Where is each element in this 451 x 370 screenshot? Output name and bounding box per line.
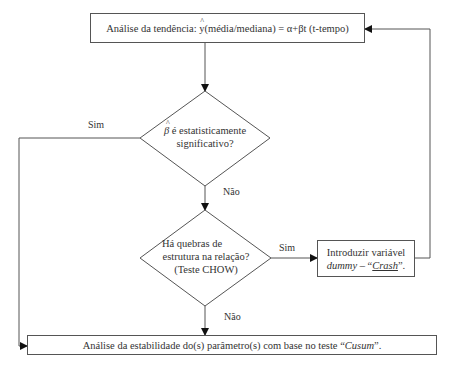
decision2-no-label: Não (224, 311, 241, 322)
decision2-text: Há quebras de estrutura na relação? (Tes… (148, 237, 264, 276)
decision2-line3: (Teste CHOW) (148, 263, 264, 276)
decision2-line2: estrutura na relação? (148, 250, 264, 263)
dummy-line1: Introduzir variável (327, 246, 405, 259)
stability-analysis-box: Análise da estabilidade do(s) parâmetro(… (27, 335, 437, 355)
beta-hat-symbol: β (164, 124, 169, 137)
stability-end: ”. (374, 339, 381, 352)
decision2-yes-label: Sim (279, 242, 295, 253)
decision1-line1: é estatisticamente (169, 125, 246, 136)
stability-prefix: Análise da estabilidade do(s) parâmetro(… (83, 339, 345, 352)
dummy-end: ”. (398, 260, 405, 271)
y-hat-symbol: y (199, 22, 204, 35)
decision2-line1: Há quebras de (148, 237, 264, 250)
decision1-yes-label: Sim (88, 119, 104, 130)
cusum-word: Cusum (345, 339, 374, 352)
dummy-variable-box: Introduzir variável dummy – “Crash”. (317, 240, 415, 277)
crash-word: Crash (372, 260, 398, 271)
dummy-dash: – “ (357, 260, 372, 271)
arrow-decision1-yes (19, 138, 140, 346)
arrow-loop-back (365, 29, 430, 258)
decision1-text: β é estatisticamente significativo? (150, 124, 260, 150)
trend-analysis-box: Análise da tendência: y (média/mediana) … (90, 13, 365, 43)
trend-suffix: (média/mediana) = α+βt (t-tempo) (205, 22, 349, 35)
trend-prefix: Análise da tendência: (106, 22, 196, 35)
decision1-no-label: Não (223, 186, 240, 197)
dummy-word: dummy (327, 260, 357, 271)
decision1-line2: significativo? (150, 137, 260, 150)
